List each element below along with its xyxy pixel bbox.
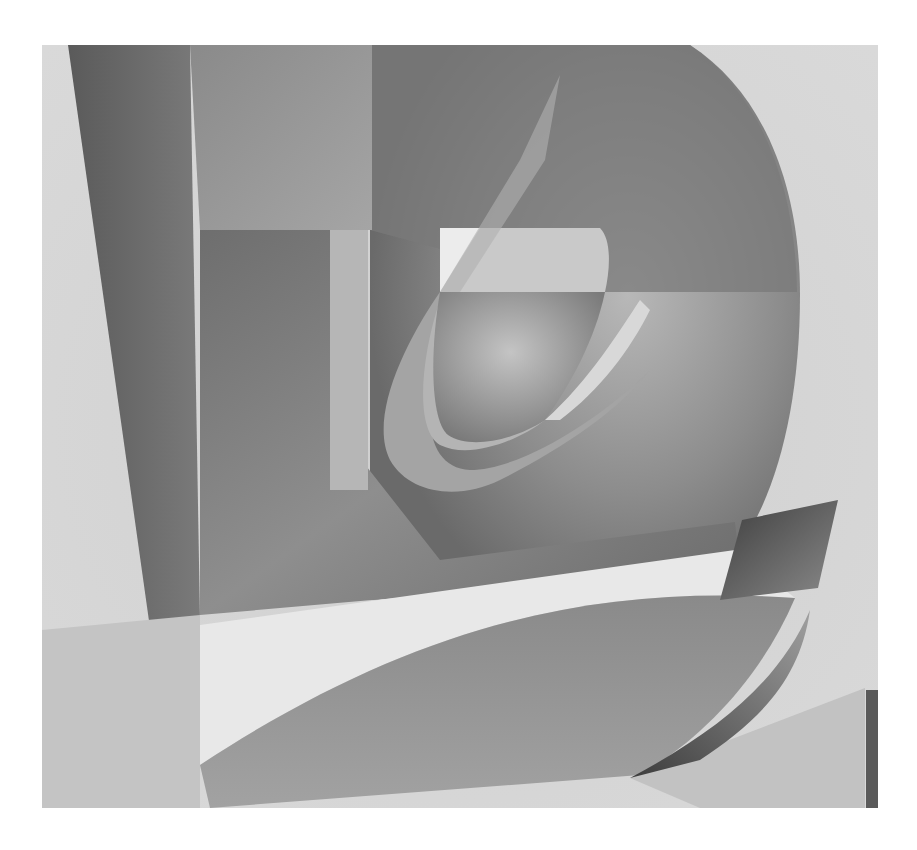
top-middle-block — [190, 45, 372, 230]
light-vertical-strip — [330, 230, 368, 490]
right-edge-strip — [866, 690, 878, 808]
lower-left-light — [42, 615, 200, 808]
abstract-painting — [0, 0, 917, 850]
